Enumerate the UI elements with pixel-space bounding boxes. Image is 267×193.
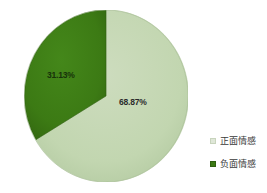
pie-graphic [24,10,188,182]
legend-label-negative: 负面情感 [220,159,256,169]
legend-item-positive[interactable]: 正面情感 [210,135,266,147]
legend-swatch-negative-icon [210,161,216,167]
slice-label-negative: 31.13% [47,70,75,80]
slice-label-positive: 68.87% [119,97,147,107]
legend-swatch-positive-icon [210,138,216,144]
pie-chart: 31.13% 68.87% 正面情感 负面情感 [0,0,267,193]
legend-label-positive: 正面情感 [220,136,256,146]
legend-item-negative[interactable]: 负面情感 [210,158,266,170]
pie-svg [24,10,188,182]
chart-legend: 正面情感 负面情感 [210,135,266,181]
